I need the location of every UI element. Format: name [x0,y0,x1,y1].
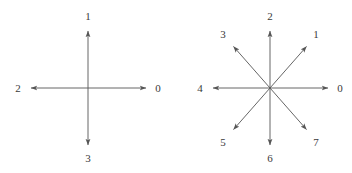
label-right-dir-0: 0 [333,83,347,94]
label-right-dir-5: 5 [216,137,230,148]
label-right-dir-7: 7 [309,137,323,148]
panel-four-connectivity [31,31,146,145]
label-right-dir-1: 1 [309,29,323,40]
label-right-dir-3: 3 [216,29,230,40]
arrow-right-dir-1 [270,47,307,89]
label-right-dir-4: 4 [193,83,207,94]
label-right-dir-6: 6 [263,153,277,164]
arrow-right-dir-5 [234,88,271,130]
arrow-right-dir-7 [270,88,307,130]
label-left-dir-3: 3 [81,153,95,164]
label-left-dir-0: 0 [151,83,165,94]
figure-canvas: 0 1 2 3 0 1 2 3 4 5 6 7 [0,0,352,173]
label-left-dir-2: 2 [11,83,25,94]
direction-diagrams-svg [0,0,352,173]
panel-eight-connectivity [213,31,328,145]
arrow-right-dir-3 [234,47,271,89]
label-left-dir-1: 1 [81,11,95,22]
label-right-dir-2: 2 [263,11,277,22]
